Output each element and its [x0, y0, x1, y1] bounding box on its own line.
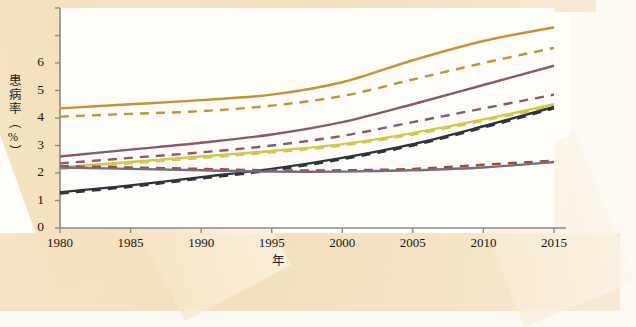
- series-line-yellow-dashed: [60, 106, 554, 169]
- y-tick-3: 3: [28, 137, 44, 153]
- y-tick-1: 1: [28, 192, 44, 208]
- series-line-orange-dashed: [60, 48, 554, 117]
- x-tick-2015: 2015: [531, 235, 577, 251]
- y-tick-2: 2: [28, 164, 44, 180]
- x-axis-title: 年: [272, 250, 285, 269]
- x-tick-2010: 2010: [460, 235, 506, 251]
- y-tick-6: 6: [28, 54, 44, 70]
- series-line-purple-solid: [60, 66, 554, 157]
- x-tick-1980: 1980: [37, 235, 83, 251]
- y-tick-5: 5: [28, 82, 44, 98]
- x-tick-1985: 1985: [108, 235, 154, 251]
- y-axis-title: 患病率（%）: [2, 74, 20, 159]
- series-line-yellow-solid: [60, 104, 554, 167]
- x-tick-2005: 2005: [390, 235, 436, 251]
- x-tick-2000: 2000: [319, 235, 365, 251]
- x-axis-tick-labels: 19801985199019952000200520102015: [0, 231, 570, 253]
- x-tick-1995: 1995: [249, 235, 295, 251]
- x-tick-1990: 1990: [178, 235, 224, 251]
- series-line-orange-solid: [60, 27, 554, 108]
- y-tick-4: 4: [28, 109, 44, 125]
